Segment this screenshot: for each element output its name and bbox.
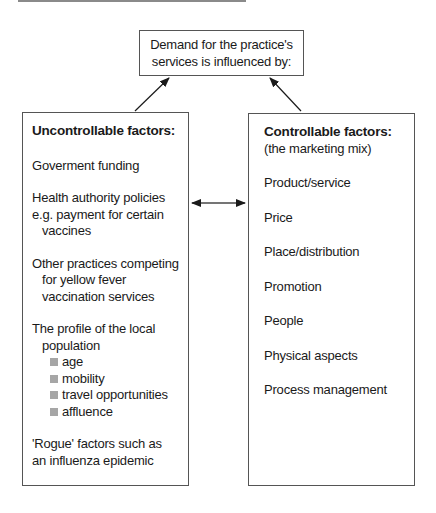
bullet-item-affluence: affluence [32, 404, 188, 421]
factor-line: 'Rogue' factors such as [32, 436, 188, 453]
uncontrollable-factors-box: Uncontrollable factors: Goverment fundin… [22, 112, 189, 486]
bullet-label: travel opportunities [62, 387, 168, 402]
controllable-factors-box: Controllable factors: (the marketing mix… [248, 113, 415, 486]
square-bullet-icon [50, 391, 58, 399]
controllable-title: Controllable factors: [264, 124, 414, 141]
factor-local-population: The profile of the local population age … [32, 321, 188, 420]
factor-line: vaccines [32, 223, 188, 240]
factor-health-authority: Health authority policies e.g. payment f… [32, 190, 188, 240]
factor-line: Other practices competing [32, 256, 188, 273]
square-bullet-icon [50, 408, 58, 416]
mix-item-price: Price [264, 210, 414, 227]
mix-item-place: Place/distribution [264, 244, 414, 261]
factor-line: population [32, 338, 188, 355]
arrow-right-to-top [270, 78, 301, 111]
mix-item-product: Product/service [264, 175, 414, 192]
factor-line: Goverment funding [32, 158, 188, 175]
mix-item-people: People [264, 313, 414, 330]
factor-line: for yellow fever [32, 272, 188, 289]
bullet-label: mobility [62, 371, 104, 386]
demand-text-line-1: Demand for the practice's [140, 36, 303, 53]
demand-box: Demand for the practice's services is in… [139, 30, 304, 76]
bullet-item-age: age [32, 354, 188, 371]
mix-item-promotion: Promotion [264, 279, 414, 296]
factor-line: The profile of the local [32, 321, 188, 338]
mix-item-physical: Physical aspects [264, 348, 414, 365]
square-bullet-icon [50, 375, 58, 383]
factor-line: Health authority policies [32, 190, 188, 207]
bullet-item-mobility: mobility [32, 371, 188, 388]
arrow-left-to-top [135, 78, 169, 111]
square-bullet-icon [50, 358, 58, 366]
factor-government-funding: Goverment funding [32, 158, 188, 175]
mix-item-process: Process management [264, 382, 414, 399]
factor-rogue: 'Rogue' factors such as an influenza epi… [32, 436, 188, 469]
factor-line: vaccination services [32, 289, 188, 306]
bullet-label: age [62, 354, 83, 369]
demand-text-line-2: services is influenced by: [140, 53, 303, 70]
factor-other-practices: Other practices competing for yellow fev… [32, 256, 188, 306]
uncontrollable-title: Uncontrollable factors: [32, 123, 188, 140]
bullet-label: affluence [62, 404, 113, 419]
controllable-subtitle: (the marketing mix) [264, 141, 414, 158]
bullet-item-travel: travel opportunities [32, 387, 188, 404]
factor-line: e.g. payment for certain [32, 207, 188, 224]
factor-line: an influenza epidemic [32, 453, 188, 470]
